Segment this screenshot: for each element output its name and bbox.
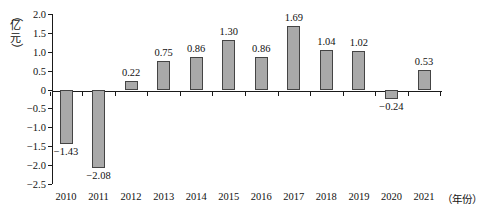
- bar-value-label-2019: 1.02: [350, 37, 368, 48]
- bar-value-label-2020: −0.24: [379, 101, 403, 112]
- y-axis-line: [52, 14, 53, 184]
- x-axis-tick-label-2020: 2020: [381, 191, 402, 202]
- bar-value-label-2017: 1.69: [285, 12, 303, 23]
- x-axis-tick: [147, 92, 148, 96]
- plot-area: 2.01.51.00.50−0.5−1.0−1.5−2.0−2.5−1.4320…: [52, 14, 442, 184]
- x-axis-tick: [408, 92, 409, 96]
- x-axis-tick: [82, 92, 83, 96]
- x-axis-tick-label-2013: 2013: [153, 191, 174, 202]
- x-axis-tick: [50, 92, 51, 96]
- bar-value-label-2011: −2.08: [86, 170, 110, 181]
- y-axis-tick-label: 1.0: [33, 46, 46, 57]
- y-axis-tick: [48, 90, 52, 91]
- x-axis-tick-label-2011: 2011: [88, 191, 109, 202]
- x-axis-tick-label-2018: 2018: [316, 191, 337, 202]
- x-axis-tick: [310, 92, 311, 96]
- x-axis-zero-line: [52, 91, 442, 92]
- x-axis-tick-label-2019: 2019: [348, 191, 369, 202]
- bar-2019: [352, 51, 365, 90]
- y-axis-tick-label: −1.0: [27, 122, 46, 133]
- x-axis-tick-label-2012: 2012: [121, 191, 142, 202]
- y-axis-title: （ 亿 元 ）: [4, 12, 26, 52]
- bar-value-label-2013: 0.75: [154, 47, 172, 58]
- x-axis-tick-label-2017: 2017: [283, 191, 304, 202]
- bar-value-label-2010: −1.43: [54, 146, 78, 157]
- bar-value-label-2021: 0.53: [415, 56, 433, 67]
- bar-value-label-2012: 0.22: [122, 67, 140, 78]
- y-axis-title-open-paren: （: [12, 10, 19, 22]
- bar-2011: [92, 90, 105, 169]
- y-axis-tick-label: −1.5: [27, 141, 46, 152]
- y-axis-tick: [48, 184, 52, 185]
- x-axis-tick: [278, 92, 279, 96]
- y-axis-tick-label: 0: [41, 84, 46, 95]
- y-axis-tick-label: 2.0: [33, 9, 46, 20]
- y-axis-tick: [48, 146, 52, 147]
- bar-2010: [60, 90, 73, 144]
- bar-2012: [125, 81, 138, 89]
- bar-2018: [320, 50, 333, 89]
- y-axis-tick-label: −0.5: [27, 103, 46, 114]
- x-axis-tick: [343, 92, 344, 96]
- y-axis-tick-label: 0.5: [33, 65, 46, 76]
- bar-2013: [157, 61, 170, 89]
- bar-2016: [255, 57, 268, 89]
- y-axis-tick: [48, 33, 52, 34]
- x-axis-tick: [440, 92, 441, 96]
- y-axis-tick: [48, 127, 52, 128]
- y-axis-tick: [48, 52, 52, 53]
- x-axis-tick-label-2014: 2014: [186, 191, 207, 202]
- x-axis-title: （年份）: [442, 191, 480, 206]
- x-axis-tick: [245, 92, 246, 96]
- bar-2014: [190, 57, 203, 89]
- y-axis-tick-label: −2.5: [27, 179, 46, 190]
- y-axis-tick: [48, 71, 52, 72]
- bar-2021: [418, 70, 431, 90]
- y-axis-tick-label: −2.0: [27, 160, 46, 171]
- bar-2017: [287, 26, 300, 90]
- bar-value-label-2015: 1.30: [220, 26, 238, 37]
- y-axis-tick: [48, 165, 52, 166]
- x-axis-tick: [115, 92, 116, 96]
- x-axis-tick: [375, 92, 376, 96]
- x-axis-tick: [180, 92, 181, 96]
- bar-2020: [385, 90, 398, 99]
- x-axis-tick-label-2021: 2021: [414, 191, 435, 202]
- x-axis-tick-label-2010: 2010: [56, 191, 77, 202]
- bar-value-label-2018: 1.04: [317, 36, 335, 47]
- bar-2015: [222, 40, 235, 89]
- bar-value-label-2014: 0.86: [187, 43, 205, 54]
- y-axis-tick-label: 1.5: [33, 27, 46, 38]
- x-axis-tick-label-2016: 2016: [251, 191, 272, 202]
- x-axis-tick: [212, 92, 213, 96]
- y-axis-tick: [48, 14, 52, 15]
- x-axis-tick-label-2015: 2015: [218, 191, 239, 202]
- y-axis-title-close-paren: ）: [12, 43, 19, 55]
- bar-value-label-2016: 0.86: [252, 43, 270, 54]
- y-axis-tick: [48, 108, 52, 109]
